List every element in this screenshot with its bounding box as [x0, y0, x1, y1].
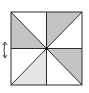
center-point: [45, 47, 48, 50]
rotation-arrow-icon: [3, 42, 7, 58]
geometry-diagram: [0, 0, 89, 93]
